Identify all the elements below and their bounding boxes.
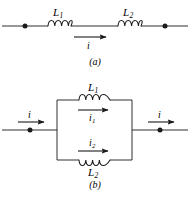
inductor-a-L1-icon — [48, 20, 72, 26]
label-b-current-i1: i1 — [89, 113, 95, 125]
label-b-L2: L2 — [88, 167, 98, 180]
label-b-current-left-i: i — [28, 110, 31, 120]
caption-panel-b: (b) — [75, 180, 115, 190]
label-b-current-i2: i2 — [89, 138, 95, 150]
inductor-b-L1-icon — [79, 94, 110, 100]
node-dot-a-left — [23, 24, 28, 29]
circuit-figure: L1 L2 i (a) L1 i1 i2 L2 i i (b) — [0, 0, 191, 197]
panel-a-circuit — [2, 20, 188, 37]
caption-panel-a: (a) — [75, 57, 115, 67]
label-b-current-right-i: i — [158, 110, 161, 120]
inductor-a-L2-icon — [118, 20, 142, 26]
label-a-L1: L1 — [53, 7, 63, 20]
label-a-current-i: i — [87, 41, 90, 51]
node-dot-a-right — [163, 24, 168, 29]
node-dot-b-left — [28, 128, 33, 133]
label-b-L1: L1 — [88, 82, 98, 95]
inductor-b-L2-icon — [79, 160, 110, 166]
label-a-L2: L2 — [123, 7, 133, 20]
node-dot-b-right — [158, 128, 163, 133]
panel-b-circuit — [2, 94, 188, 165]
